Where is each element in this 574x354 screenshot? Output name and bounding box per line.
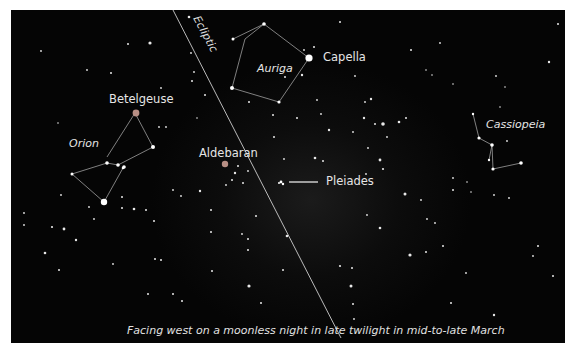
pleiades-cluster bbox=[278, 181, 284, 186]
auriga-label: Auriga bbox=[257, 63, 293, 74]
capella-label: Capella bbox=[323, 52, 366, 64]
capella-star bbox=[305, 54, 312, 61]
background-stars bbox=[23, 16, 565, 320]
pleiades-label: Pleiades bbox=[326, 176, 374, 188]
aldebaran-label: Aldebaran bbox=[199, 148, 258, 160]
betelgeuse-label: Betelgeuse bbox=[109, 94, 173, 106]
orion-lines bbox=[72, 113, 153, 202]
rigel-star bbox=[101, 199, 107, 205]
betelgeuse-star bbox=[133, 110, 140, 117]
map-caption: Facing west on a moonless night in late … bbox=[127, 325, 505, 336]
cassiopeia-label: Cassiopeia bbox=[486, 119, 545, 130]
star-map: Ecliptic Betelgeuse Orion Aldebaran Auri… bbox=[11, 10, 565, 343]
aldebaran-star bbox=[222, 161, 228, 167]
ecliptic-line bbox=[173, 10, 341, 338]
star-field bbox=[11, 10, 565, 343]
orion-label: Orion bbox=[69, 138, 99, 149]
